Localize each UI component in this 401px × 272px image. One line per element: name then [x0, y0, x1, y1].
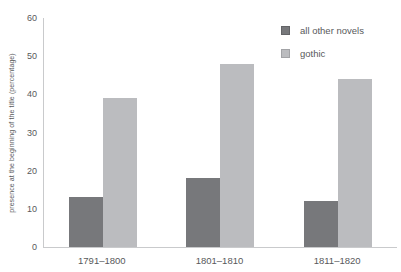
x-axis-tick-labels: 1791–18001801–18101811–1820	[43, 255, 396, 266]
bar-gothic-1811–1820	[338, 79, 372, 247]
legend-swatch-icon	[281, 49, 290, 58]
legend-item-gothic: gothic	[281, 49, 364, 58]
y-tick-label-20: 20	[0, 166, 37, 176]
bar-all-other-novels-1801–1810	[186, 178, 220, 247]
bar-group-1801–1810	[186, 64, 254, 247]
bar-group-1811–1820	[304, 79, 372, 247]
legend-item-all-other-novels: all other novels	[281, 26, 364, 35]
bar-all-other-novels-1811–1820	[304, 201, 338, 247]
bar-group-1791–1800	[69, 98, 137, 247]
x-tick-label-1811–1820: 1811–1820	[297, 255, 377, 266]
grouped-bar-chart: presence at the beginning of the title (…	[0, 0, 401, 272]
bar-all-other-novels-1791–1800	[69, 197, 103, 247]
legend-label: all other novels	[300, 26, 364, 35]
legend-swatch-icon	[281, 26, 290, 35]
x-tick-label-1801–1810: 1801–1810	[179, 255, 259, 266]
y-tick-label-10: 10	[0, 204, 37, 214]
y-tick-label-0: 0	[0, 242, 37, 252]
x-tick-label-1791–1800: 1791–1800	[62, 255, 142, 266]
legend: all other novelsgothic	[281, 26, 364, 58]
y-tick-label-60: 60	[0, 13, 37, 23]
y-tick-label-50: 50	[0, 51, 37, 61]
bar-gothic-1801–1810	[220, 64, 254, 247]
bar-gothic-1791–1800	[103, 98, 137, 247]
legend-label: gothic	[300, 49, 325, 58]
y-tick-label-30: 30	[0, 128, 37, 138]
y-tick-label-40: 40	[0, 89, 37, 99]
